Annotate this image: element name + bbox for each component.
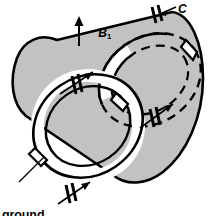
- ground-ring-label-line1: ground: [2, 209, 44, 217]
- b1-subscript: 1: [107, 32, 111, 41]
- rf-coil-figure: B1 C ground ring: [0, 0, 216, 216]
- ground-ring-leader: [19, 157, 44, 182]
- capacitor-left-bottom: [58, 182, 90, 204]
- b1-symbol: B: [98, 26, 107, 40]
- ground-ring-label: ground ring: [2, 183, 44, 216]
- capacitor-label-c: C: [178, 3, 187, 15]
- b1-field-label: B1: [85, 15, 111, 54]
